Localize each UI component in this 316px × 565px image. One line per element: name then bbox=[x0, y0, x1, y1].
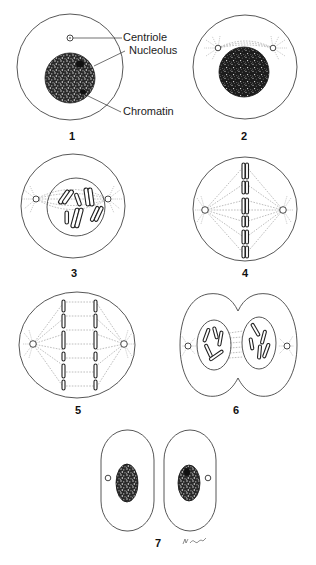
nucleolus-leader-line bbox=[94, 51, 125, 66]
nucleolus-label: Nucleolus bbox=[129, 44, 178, 56]
nucleolus-right bbox=[184, 468, 190, 476]
stage-4-cell: 4 bbox=[193, 157, 297, 279]
artist-signature bbox=[183, 538, 206, 544]
stage-5-cell: 5 bbox=[19, 292, 135, 416]
stage-number-5: 5 bbox=[75, 404, 81, 416]
chromatin-label: Chromatin bbox=[123, 105, 174, 117]
stage-2-cell: 2 bbox=[193, 15, 297, 142]
centriole-right bbox=[121, 341, 128, 348]
metaphase-chromosomes bbox=[242, 163, 249, 258]
spindle-fibers bbox=[33, 302, 124, 388]
centriole-right bbox=[284, 343, 290, 349]
nucleus-left bbox=[116, 464, 138, 502]
stage-1-cell: Centriole Nucleolus Chromatin 1 bbox=[17, 14, 178, 142]
centriole-label: Centriole bbox=[123, 31, 167, 43]
centriole-left bbox=[215, 45, 221, 51]
stage-number-1: 1 bbox=[69, 130, 75, 142]
centriole-left bbox=[30, 341, 37, 348]
centriole-left bbox=[185, 343, 191, 349]
chromatids-left bbox=[62, 300, 65, 390]
centriole-left bbox=[202, 207, 209, 214]
stage-3-cell: 3 bbox=[21, 154, 125, 279]
chromosomes-left bbox=[203, 327, 224, 362]
chromatin-leader-line bbox=[86, 95, 121, 112]
centriole-right bbox=[105, 196, 111, 202]
daughter-nucleus-right bbox=[242, 317, 276, 369]
chromatin-clump bbox=[80, 90, 86, 95]
centriole-dot-icon bbox=[69, 37, 71, 39]
chromatids-right bbox=[94, 300, 97, 390]
centriole-left bbox=[33, 196, 39, 202]
nucleolus bbox=[76, 61, 84, 68]
stage-6-cell: 6 bbox=[180, 294, 297, 416]
stage-7-cells: 7 bbox=[101, 430, 216, 549]
stage-number-7: 7 bbox=[155, 537, 161, 549]
nucleus bbox=[219, 47, 269, 97]
centriole-right bbox=[280, 207, 287, 214]
centriole-left bbox=[105, 475, 111, 481]
chromosomes bbox=[58, 188, 104, 228]
chromosomes-right bbox=[249, 323, 270, 359]
stage-number-2: 2 bbox=[241, 130, 247, 142]
centriole-right bbox=[205, 475, 211, 481]
centriole-right bbox=[270, 45, 276, 51]
mitosis-diagram: Centriole Nucleolus Chromatin 1 bbox=[0, 0, 316, 565]
cell-membrane bbox=[21, 154, 125, 258]
cell-membrane-cleaving bbox=[180, 294, 297, 397]
stage-number-6: 6 bbox=[233, 404, 239, 416]
stage-number-3: 3 bbox=[71, 267, 77, 279]
stage-number-4: 4 bbox=[242, 267, 249, 279]
